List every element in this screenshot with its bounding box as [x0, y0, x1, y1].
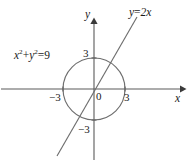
- tick-label-y-positive: 3: [83, 48, 89, 59]
- graph-canvas: [0, 0, 190, 166]
- circle-equation-label: x2+y2=9: [14, 50, 50, 62]
- tick-label-y-negative: −3: [78, 124, 90, 135]
- y-axis-label: y: [85, 9, 90, 21]
- shaded-region: [0, 0, 190, 166]
- line-eq-slope: 2x: [141, 6, 152, 18]
- x-axis-label: x: [175, 93, 180, 105]
- circle-eq-equals: =9: [38, 49, 50, 61]
- origin-label: 0: [96, 91, 102, 102]
- tick-label-x-negative: −3: [49, 92, 61, 103]
- tick-label-x-positive: 3: [124, 92, 130, 103]
- line-equation-label: y=2x: [129, 7, 151, 19]
- math-figure: x2+y2=9 y=2x y x 3 −3 −3 3 0: [0, 0, 190, 166]
